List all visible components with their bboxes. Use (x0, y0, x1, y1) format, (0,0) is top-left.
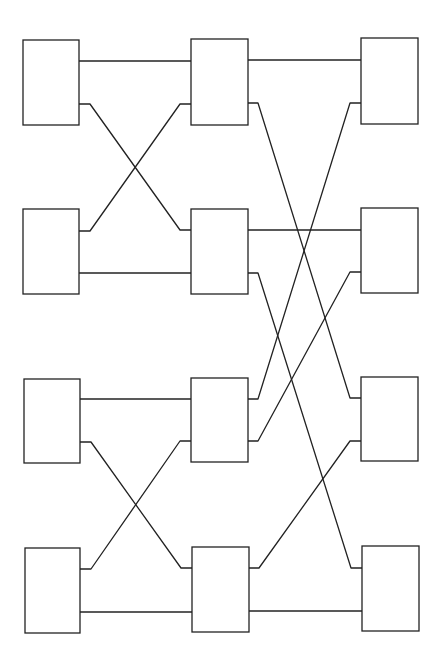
node-box (361, 208, 418, 293)
node-box (23, 209, 79, 294)
node-l4 (25, 548, 80, 633)
edge-m3-r2 (248, 272, 361, 441)
node-m3 (191, 378, 248, 462)
node-m4 (192, 547, 249, 632)
node-m1 (191, 39, 248, 125)
node-box (191, 378, 248, 462)
edge-l4-m3 (80, 441, 191, 569)
node-l1 (23, 40, 79, 125)
node-box (191, 39, 248, 125)
node-box (23, 40, 79, 125)
node-box (24, 379, 80, 463)
edge-l2-m1 (79, 104, 191, 231)
node-r4 (362, 546, 419, 631)
edge-layer (79, 60, 362, 612)
node-box (25, 548, 80, 633)
node-box (192, 547, 249, 632)
node-r1 (361, 38, 418, 124)
edge-m4-r3 (249, 441, 361, 568)
edge-m2-r4 (248, 273, 362, 568)
node-l3 (24, 379, 80, 463)
node-box (362, 546, 419, 631)
node-box (361, 377, 418, 461)
butterfly-network-diagram (0, 0, 444, 669)
node-r2 (361, 208, 418, 293)
node-l2 (23, 209, 79, 294)
node-box (191, 209, 248, 294)
node-box (361, 38, 418, 124)
node-m2 (191, 209, 248, 294)
node-layer (23, 38, 419, 633)
node-r3 (361, 377, 418, 461)
